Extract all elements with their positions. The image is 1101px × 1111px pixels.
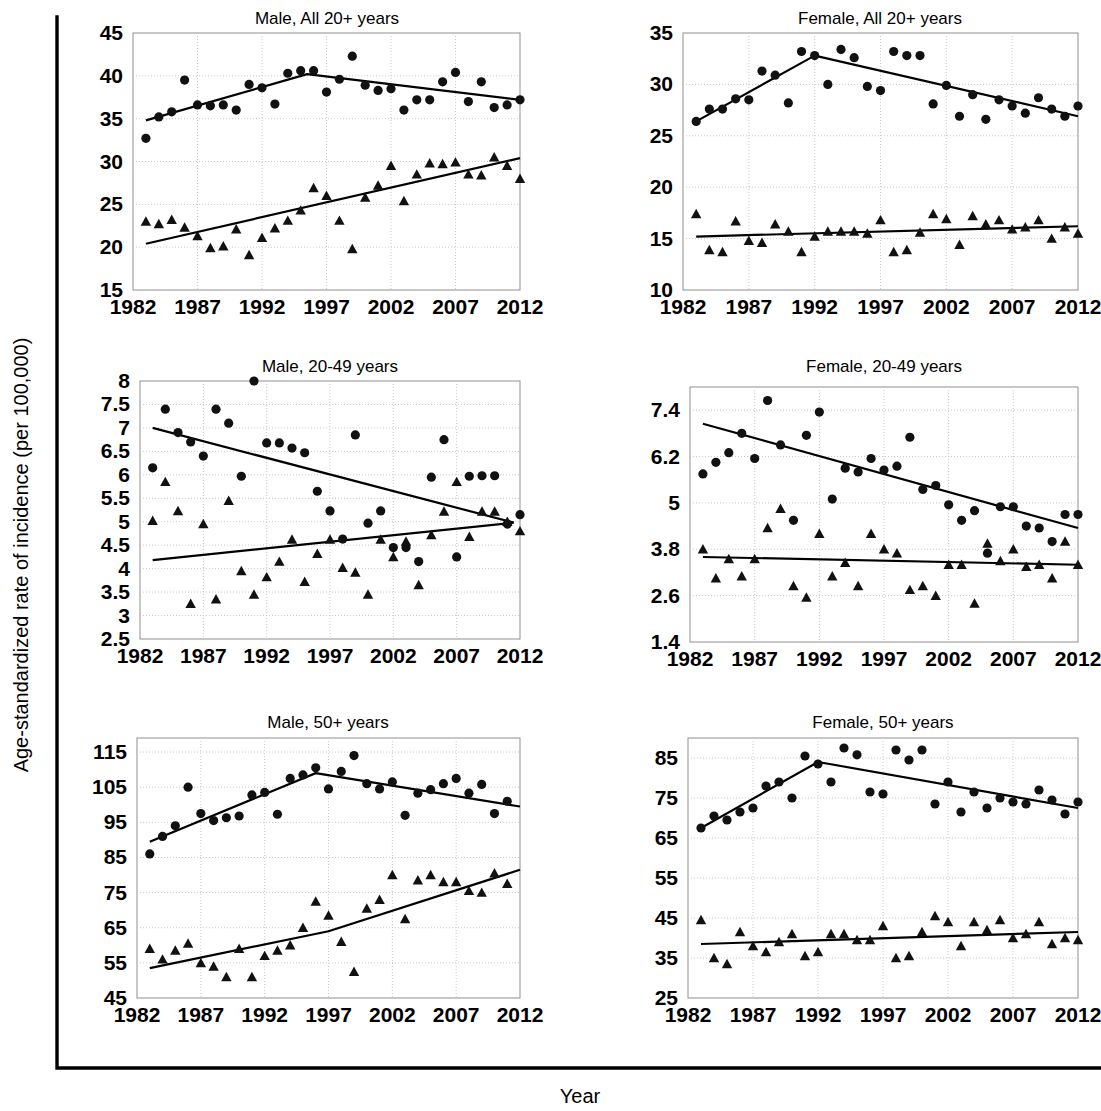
data-point-circle (718, 104, 727, 113)
data-point-circle (917, 745, 926, 754)
data-point-circle (262, 438, 271, 447)
data-point-circle (776, 440, 785, 449)
data-point-circle (995, 793, 1004, 802)
data-point-circle (692, 117, 701, 126)
data-point-circle (401, 811, 410, 820)
panel-1: Female, All 20+ years1015202530351982198… (650, 9, 1101, 318)
data-point-circle (451, 68, 460, 77)
data-point-circle (439, 435, 448, 444)
data-point-circle (865, 787, 874, 796)
x-tick-label: 1987 (731, 647, 778, 670)
data-point-circle (154, 112, 163, 121)
y-tick-label: 6 (118, 463, 130, 486)
data-point-circle (427, 473, 436, 482)
data-point-circle (399, 106, 408, 115)
y-tick-label: 55 (104, 951, 128, 974)
data-point-circle (193, 100, 202, 109)
data-point-circle (325, 506, 334, 515)
data-point-circle (171, 821, 180, 830)
data-point-circle (891, 745, 900, 754)
data-point-circle (981, 115, 990, 124)
data-point-circle (425, 95, 434, 104)
data-point-circle (737, 429, 746, 438)
data-point-circle (944, 500, 953, 509)
data-point-circle (247, 790, 256, 799)
data-point-circle (361, 81, 370, 90)
data-point-circle (515, 95, 524, 104)
data-point-circle (1060, 510, 1069, 519)
x-tick-label: 2012 (1055, 647, 1101, 670)
x-tick-label: 2002 (370, 644, 417, 667)
data-point-circle (386, 84, 395, 93)
data-point-circle (1047, 104, 1056, 113)
data-point-circle (826, 777, 835, 786)
data-point-circle (970, 506, 979, 515)
data-point-circle (388, 777, 397, 786)
data-point-circle (724, 448, 733, 457)
data-point-circle (1008, 101, 1017, 110)
data-point-circle (735, 807, 744, 816)
data-point-circle (957, 516, 966, 525)
data-point-circle (477, 77, 486, 86)
data-point-circle (503, 797, 512, 806)
data-point-circle (797, 47, 806, 56)
y-tick-label: 20 (100, 235, 123, 258)
data-point-circle (439, 779, 448, 788)
data-point-circle (1022, 521, 1031, 530)
y-tick-label: 8 (118, 369, 130, 392)
data-point-circle (863, 82, 872, 91)
data-point-circle (412, 95, 421, 104)
y-axis-title: Age-standardized rate of incidence (per … (10, 338, 32, 773)
y-tick-label: 25 (650, 124, 674, 147)
figure-root: Age-standardized rate of incidence (per … (0, 0, 1101, 1111)
data-point-circle (905, 433, 914, 442)
data-point-circle (490, 471, 499, 480)
x-tick-label: 1992 (791, 295, 838, 318)
y-tick-label: 35 (655, 946, 679, 969)
data-point-circle (206, 101, 215, 110)
data-point-circle (348, 52, 357, 61)
data-point-circle (918, 485, 927, 494)
y-tick-label: 30 (100, 150, 123, 173)
x-tick-label: 2007 (432, 295, 479, 318)
x-tick-label: 2002 (925, 647, 972, 670)
x-tick-label: 1997 (307, 644, 354, 667)
data-point-circle (698, 469, 707, 478)
y-tick-label: 6.2 (651, 445, 680, 468)
data-point-circle (852, 750, 861, 759)
data-point-circle (389, 543, 398, 552)
x-tick-label: 2007 (433, 1003, 480, 1026)
data-point-circle (1034, 93, 1043, 102)
y-tick-label: 4.5 (101, 533, 131, 556)
y-tick-label: 3 (118, 604, 130, 627)
data-point-circle (503, 100, 512, 109)
x-tick-label: 2012 (497, 295, 544, 318)
x-tick-label: 1982 (110, 295, 157, 318)
data-point-circle (784, 98, 793, 107)
data-point-circle (335, 75, 344, 84)
data-point-circle (452, 552, 461, 561)
y-tick-label: 35 (650, 21, 674, 44)
panel-4: Male, 50+ years4555657585951051151982198… (92, 713, 543, 1026)
data-point-circle (955, 112, 964, 121)
data-point-circle (771, 71, 780, 80)
y-tick-label: 105 (92, 775, 127, 798)
data-point-circle (731, 94, 740, 103)
data-point-circle (464, 789, 473, 798)
data-point-circle (1048, 537, 1057, 546)
panel-title-3: Female, 20-49 years (806, 357, 962, 376)
x-tick-label: 2012 (497, 644, 544, 667)
data-point-circle (1021, 109, 1030, 118)
x-tick-label: 2007 (990, 647, 1037, 670)
y-tick-label: 3.5 (101, 580, 131, 603)
y-tick-label: 85 (104, 845, 128, 868)
data-point-circle (982, 803, 991, 812)
data-point-circle (362, 779, 371, 788)
y-tick-label: 4 (118, 557, 130, 580)
data-point-circle (1035, 523, 1044, 532)
data-point-circle (866, 454, 875, 463)
data-point-circle (286, 774, 295, 783)
data-point-circle (313, 487, 322, 496)
data-point-circle (196, 809, 205, 818)
plot-frame-0 (133, 33, 520, 290)
